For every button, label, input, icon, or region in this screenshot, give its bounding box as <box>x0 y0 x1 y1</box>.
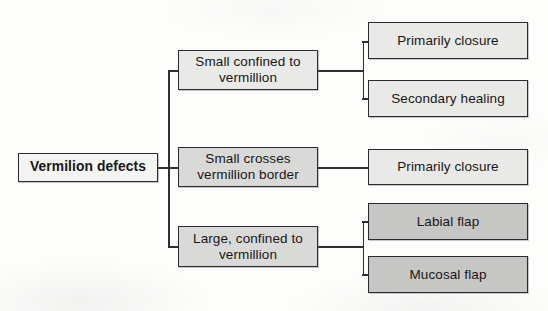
connector-root-trunk <box>168 70 170 248</box>
node-leaf-3-label: Primarily closure <box>397 159 498 175</box>
node-root-vermilion-defects[interactable]: Vermilion defects <box>18 153 158 182</box>
node-branch-2-line1: Small crosses <box>205 151 290 166</box>
node-leaf-5-label: Mucosal flap <box>410 267 487 283</box>
node-branch-large-confined[interactable]: Large, confined to vermillion <box>178 226 318 267</box>
node-root-label: Vermilion defects <box>30 159 146 175</box>
node-branch-1-line2: vermillion <box>219 70 277 85</box>
node-leaf-mucosal-flap[interactable]: Mucosal flap <box>368 256 528 293</box>
connector-branch-3-trunk <box>363 221 365 276</box>
node-leaf-primarily-closure-1[interactable]: Primarily closure <box>368 22 528 59</box>
connector-branch-1-stub <box>318 70 364 72</box>
vermilion-defects-flowchart: Vermilion defects Small confined to verm… <box>0 0 548 311</box>
connector-branch-3-stub <box>318 246 364 248</box>
node-leaf-4-label: Labial flap <box>417 214 480 230</box>
node-leaf-1-label: Primarily closure <box>397 33 498 49</box>
node-branch-small-confined[interactable]: Small confined to vermillion <box>178 50 318 90</box>
node-branch-1-line1: Small confined to <box>195 54 300 69</box>
connector-branch-1-trunk <box>363 41 365 100</box>
node-leaf-primarily-closure-2[interactable]: Primarily closure <box>368 149 528 185</box>
node-branch-3-label: Large, confined to vermillion <box>193 231 303 263</box>
node-leaf-secondary-healing[interactable]: Secondary healing <box>368 80 528 117</box>
node-branch-2-line2: vermillion border <box>197 167 299 182</box>
node-branch-2-label: Small crosses vermillion border <box>197 151 299 183</box>
node-branch-3-line1: Large, confined to <box>193 231 303 246</box>
node-branch-3-line2: vermillion <box>219 247 277 262</box>
node-branch-1-label: Small confined to vermillion <box>195 54 300 86</box>
connector-branch-2-stub <box>318 167 368 169</box>
node-leaf-2-label: Secondary healing <box>391 91 505 107</box>
node-leaf-labial-flap[interactable]: Labial flap <box>368 203 528 240</box>
node-branch-small-crosses-border[interactable]: Small crosses vermillion border <box>178 147 318 187</box>
